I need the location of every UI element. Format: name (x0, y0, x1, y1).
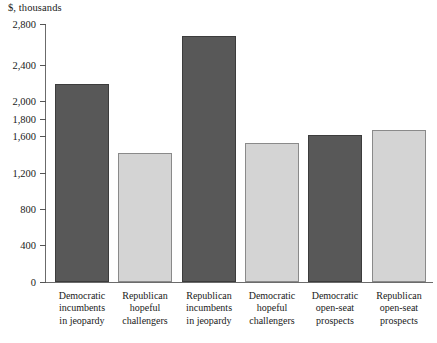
y-axis-tick-label: 2,000 (2, 96, 36, 107)
y-axis-tick-mark (40, 245, 46, 246)
bar (308, 135, 362, 282)
category-label-line: Republican (111, 290, 179, 302)
plot-area: 04008001,2001,6001,8002,0002,4002,800 De… (0, 0, 437, 343)
y-axis-tick-label: 1,800 (2, 114, 36, 125)
bar (245, 143, 299, 282)
category-label-line: in jeopardy (175, 315, 243, 327)
y-axis-tick-label: 400 (2, 240, 36, 251)
category-label-line: challengers (111, 315, 179, 327)
y-axis-tick-mark (40, 136, 46, 137)
y-axis-tick-label: 2,800 (2, 19, 36, 30)
y-axis-tick-label: 1,600 (2, 131, 36, 142)
x-axis-line (45, 282, 433, 283)
bar (118, 153, 172, 282)
bar (372, 130, 426, 282)
category-label-line: Democratic (238, 290, 306, 302)
category-label-line: Democratic (301, 290, 369, 302)
y-axis-tick-mark (40, 119, 46, 120)
category-label-line: prospects (365, 315, 433, 327)
y-axis-tick-mark (40, 101, 46, 102)
y-axis-tick-mark (40, 24, 46, 25)
y-axis-tick-label: 800 (2, 204, 36, 215)
bar (55, 84, 109, 282)
x-axis-category-label: Republicanhopefulchallengers (111, 290, 179, 327)
y-axis-tick-mark (40, 282, 46, 283)
x-axis-category-label: Republicanopen-seatprospects (365, 290, 433, 327)
category-label-line: in jeopardy (48, 315, 116, 327)
category-label-line: hopeful (238, 302, 306, 314)
x-axis-category-label: Democraticincumbentsin jeopardy (48, 290, 116, 327)
category-label-line: Democratic (48, 290, 116, 302)
category-label-line: incumbents (48, 302, 116, 314)
category-label-line: challengers (238, 315, 306, 327)
x-axis-category-label: Republicanincumbentsin jeopardy (175, 290, 243, 327)
category-label-line: prospects (301, 315, 369, 327)
bar (182, 36, 236, 282)
y-axis-tick-mark (40, 173, 46, 174)
category-label-line: open-seat (301, 302, 369, 314)
category-label-line: Republican (175, 290, 243, 302)
category-label-line: Republican (365, 290, 433, 302)
y-axis-tick-label: 0 (2, 277, 36, 288)
y-axis-tick-mark (40, 209, 46, 210)
x-axis-category-label: Democraticopen-seatprospects (301, 290, 369, 327)
bar-chart: $, thousands 04008001,2001,6001,8002,000… (0, 0, 437, 343)
category-label-line: hopeful (111, 302, 179, 314)
category-label-line: open-seat (365, 302, 433, 314)
category-label-line: incumbents (175, 302, 243, 314)
x-axis-category-label: Democratichopefulchallengers (238, 290, 306, 327)
y-axis-tick-label: 2,400 (2, 60, 36, 71)
y-axis-tick-label: 1,200 (2, 168, 36, 179)
y-axis-tick-mark (40, 65, 46, 66)
